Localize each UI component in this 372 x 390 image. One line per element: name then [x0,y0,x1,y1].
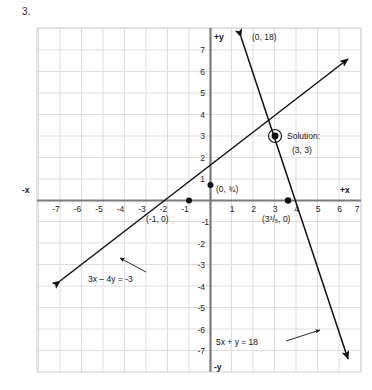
axis-label-negative-x: -x [22,185,30,195]
x-tick--1: -1 [181,204,189,214]
y-tick--6: -6 [197,325,205,335]
x-tick-7: 7 [355,204,360,214]
label-point-neg1-0: (-1, 0) [146,214,169,224]
y-tick-6: 6 [200,67,205,77]
y-tick--5: -5 [197,303,205,313]
equation-label-line2: 5x + y = 18 [216,337,258,347]
coordinate-graph: -x +x +y -y -7 -6 -5 -4 -3 -2 -1 1 2 3 4… [0,0,372,390]
solution-point [272,133,279,140]
x-tick--7: -7 [52,204,60,214]
y-tick-5: 5 [200,88,205,98]
solution-title: Solution: [287,131,320,141]
x-tick--6: -6 [74,204,82,214]
x-tick-6: 6 [337,204,342,214]
y-tick-4: 4 [200,110,205,120]
point-0-three-quarters [208,182,214,188]
y-tick-7: 7 [200,45,205,55]
x-tick--5: -5 [95,204,103,214]
x-tick--2: -2 [160,204,168,214]
equation-label-line1: 3x – 4y = -3 [88,274,133,284]
axis-label-positive-x: +x [340,185,350,195]
label-point-0-18: (0, 18) [252,32,277,42]
y-tick-2: 2 [200,153,205,163]
y-tick--3: -3 [197,260,205,270]
point-x-intercept-3-and-3-fifths [285,197,291,203]
x-tick-1: 1 [230,204,235,214]
axis-label-positive-y: +y [214,32,224,42]
x-tick--3: -3 [138,204,146,214]
y-tick--2: -2 [197,239,205,249]
y-tick-1: 1 [200,174,205,184]
x-tick-5: 5 [316,204,321,214]
x-tick--4: -4 [117,204,125,214]
x-tick-2: 2 [251,204,256,214]
point-neg1-0 [186,198,192,204]
label-point-0-three-quarters: (0, ¾) [216,184,238,194]
graph-svg: -x +x +y -y -7 -6 -5 -4 -3 -2 -1 1 2 3 4… [0,0,372,390]
y-tick-3: 3 [200,131,205,141]
y-tick--7: -7 [197,346,205,356]
y-tick--4: -4 [197,282,205,292]
y-tick--1: -1 [201,217,209,227]
x-tick-3: 3 [273,204,278,214]
label-point-x-intercept: (3³/₅, 0) [262,214,291,224]
axis-label-negative-y: -y [214,362,222,372]
solution-coords: (3, 3) [292,145,312,155]
